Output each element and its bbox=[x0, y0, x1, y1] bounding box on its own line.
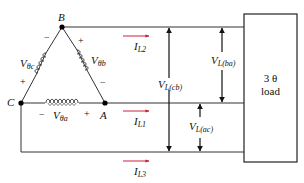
source-vtheta-b-minus: − bbox=[100, 78, 106, 88]
node-b-dot bbox=[59, 24, 64, 29]
node-a-label: A bbox=[100, 110, 107, 121]
source-vtheta-c-minus: − bbox=[44, 33, 50, 43]
load-label-line2: load bbox=[244, 85, 297, 98]
source-vtheta-b-plus: + bbox=[78, 36, 84, 46]
source-vtheta-a-minus: − bbox=[39, 110, 45, 120]
current-il2-label: IL2 bbox=[134, 41, 146, 54]
node-b-label: B bbox=[58, 12, 65, 23]
source-vtheta-c-plus: + bbox=[20, 77, 26, 87]
current-il1-label: IL1 bbox=[134, 116, 146, 129]
node-a-dot bbox=[102, 100, 107, 105]
voltage-vl-ac-label: VL(ac) bbox=[189, 121, 213, 134]
coil-vtheta-a bbox=[45, 99, 79, 105]
source-vtheta-a-label: Vθa bbox=[53, 110, 68, 123]
load-label: 3 θ load bbox=[244, 72, 297, 98]
voltage-vl-cb-label: VL(cb) bbox=[158, 79, 182, 92]
source-vtheta-b-label: Vθb bbox=[91, 55, 106, 68]
node-c-label: C bbox=[7, 97, 14, 108]
voltage-vl-ba-label: VL(ba) bbox=[211, 55, 236, 68]
source-vtheta-a-plus: + bbox=[84, 109, 90, 119]
load-label-line1: 3 θ bbox=[244, 72, 297, 85]
current-il3-label: IL3 bbox=[134, 166, 146, 179]
node-c-dot bbox=[18, 100, 23, 105]
source-vtheta-c-label: Vθc bbox=[20, 58, 34, 71]
